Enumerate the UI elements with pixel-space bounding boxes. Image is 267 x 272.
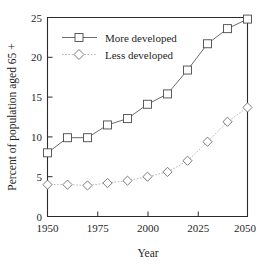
- data-point: [163, 167, 172, 176]
- legend-marker-square: [75, 34, 83, 42]
- data-point: [184, 66, 192, 74]
- data-point: [44, 149, 52, 157]
- x-tick-label-2025: 2025: [187, 222, 210, 234]
- data-point: [144, 100, 152, 108]
- data-point: [103, 178, 112, 187]
- legend-label-less-developed: Less developed: [105, 49, 174, 61]
- x-tick-label-1950: 1950: [37, 222, 60, 234]
- x-tick-label-2000: 2000: [137, 222, 160, 234]
- x-tick-group: 1950 1975 2000 2025 2050: [37, 212, 257, 235]
- y-tick-label-5: 5: [37, 171, 43, 183]
- y-tick-label-10: 10: [31, 131, 43, 143]
- data-point: [224, 25, 232, 33]
- data-point: [43, 180, 52, 189]
- data-point: [83, 181, 92, 190]
- data-point: [84, 134, 92, 142]
- data-point: [124, 115, 132, 123]
- data-point: [164, 90, 172, 98]
- chart-legend: More developed Less developed: [62, 32, 177, 61]
- x-tick-label-1975: 1975: [87, 222, 110, 234]
- y-tick-label-0: 0: [37, 211, 43, 223]
- series-less-developed: [43, 103, 252, 190]
- chart-axes: [47, 17, 248, 217]
- y-tick-label-25: 25: [31, 12, 43, 24]
- data-point: [104, 121, 112, 129]
- data-point: [64, 134, 72, 142]
- y-tick-group: 0 5 10 15 20 25: [31, 12, 53, 223]
- y-tick-label-15: 15: [31, 91, 43, 103]
- x-tick-label-2050: 2050: [234, 222, 257, 234]
- line-chart: 0 5 10 15 20 25 1950 1975 2000 2025 2050: [0, 0, 267, 272]
- data-point: [244, 15, 252, 23]
- legend-marker-diamond: [74, 50, 84, 60]
- data-point: [243, 103, 252, 112]
- x-axis-title: Year: [137, 247, 158, 259]
- data-point: [63, 180, 72, 189]
- data-point: [143, 172, 152, 181]
- chart-figure: 0 5 10 15 20 25 1950 1975 2000 2025 2050: [0, 0, 267, 272]
- y-tick-label-20: 20: [31, 51, 43, 63]
- data-point: [204, 40, 212, 48]
- data-point: [123, 176, 132, 185]
- y-axis-title: Percent of population aged 65 +: [6, 43, 19, 190]
- legend-label-more-developed: More developed: [105, 32, 177, 44]
